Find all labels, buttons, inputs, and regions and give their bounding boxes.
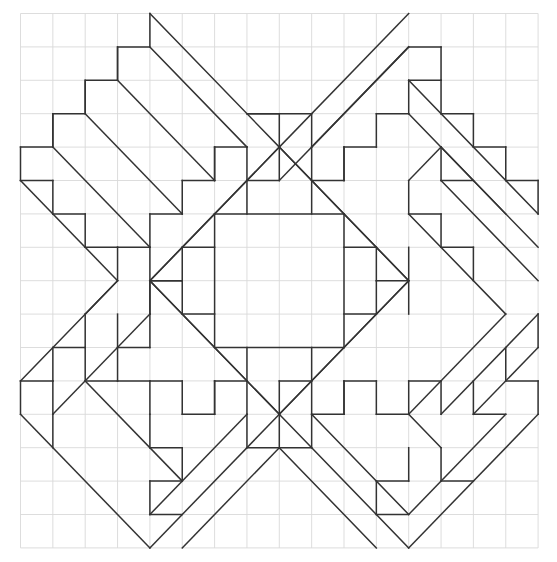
geometric-pattern-figure (0, 0, 557, 562)
pattern-canvas (0, 0, 557, 562)
